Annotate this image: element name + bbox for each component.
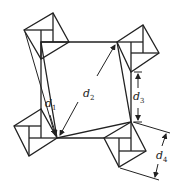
d2-arrow-lower: [60, 102, 78, 135]
label-d4: d4: [156, 150, 168, 164]
label-d4-sub: 4: [163, 156, 167, 164]
label-d4-base: d: [156, 149, 163, 162]
d4-arrow-down: [155, 164, 158, 177]
label-d3: d3: [133, 91, 145, 105]
label-d1-sub: 1: [52, 104, 56, 112]
label-d1-base: d: [45, 97, 52, 110]
d1-arrow: [25, 32, 55, 135]
label-d3-sub: 3: [140, 97, 144, 105]
top-right-square: [117, 25, 159, 72]
label-d2-base: d: [83, 87, 90, 100]
d4-arrow-up: [162, 134, 166, 146]
d2-arrow-upper: [97, 45, 115, 76]
label-d2: d2: [83, 88, 95, 102]
label-d1: d1: [45, 98, 57, 112]
bottom-right-square: [104, 122, 146, 167]
label-d2-sub: 2: [90, 94, 94, 102]
label-d3-base: d: [133, 90, 140, 103]
